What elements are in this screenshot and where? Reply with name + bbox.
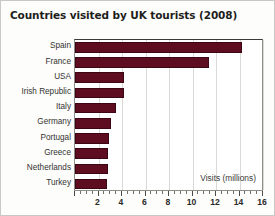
axis-tick-major — [192, 191, 193, 196]
x-tick-label: 10 — [187, 197, 197, 207]
axis-tick-minor — [244, 191, 245, 194]
axis-tick-minor — [197, 191, 198, 194]
axis-tick-minor — [109, 191, 110, 194]
chart-title: Countries visited by UK tourists (2008) — [10, 9, 237, 21]
axis-tick-minor — [180, 191, 181, 194]
axis-tick-major — [74, 191, 75, 196]
axis-tick-major — [215, 191, 216, 196]
bar — [75, 148, 108, 159]
x-axis-title: Visits (millions) — [200, 173, 256, 183]
bar-row — [75, 146, 264, 161]
axis-tick-major — [262, 191, 263, 196]
x-axis: 246810121416 — [74, 191, 263, 215]
axis-tick-minor — [221, 191, 222, 194]
axis-tick-minor — [256, 191, 257, 194]
bar-row — [75, 55, 264, 70]
category-label: Spain — [1, 41, 71, 50]
axis-tick-minor — [162, 191, 163, 194]
bar — [75, 42, 242, 53]
bar-row — [75, 86, 264, 101]
category-axis-labels: SpainFranceUSAIrish RepublicItalyGermany… — [1, 39, 71, 191]
x-tick-label: 12 — [210, 197, 220, 207]
bar — [75, 103, 116, 114]
axis-tick-minor — [139, 191, 140, 194]
axis-tick-minor — [186, 191, 187, 194]
category-label: Netherlands — [1, 163, 71, 172]
axis-tick-major — [239, 191, 240, 196]
category-label: Italy — [1, 102, 71, 111]
x-tick-label: 4 — [119, 197, 124, 207]
category-label: Germany — [1, 117, 71, 126]
axis-tick-minor — [133, 191, 134, 194]
bar-series — [75, 40, 262, 190]
category-label: Portugal — [1, 133, 71, 142]
category-label: France — [1, 57, 71, 66]
category-label: Turkey — [1, 178, 71, 187]
axis-tick-major — [168, 191, 169, 196]
axis-tick-major — [145, 191, 146, 196]
axis-tick-minor — [92, 191, 93, 194]
category-label: Greece — [1, 148, 71, 157]
axis-tick-minor — [80, 191, 81, 194]
bar — [75, 179, 107, 190]
axis-tick-major — [98, 191, 99, 196]
axis-tick-minor — [233, 191, 234, 194]
axis-tick-minor — [209, 191, 210, 194]
bar — [75, 164, 108, 175]
category-label: USA — [1, 72, 71, 81]
axis-tick-minor — [156, 191, 157, 194]
x-tick-label: 8 — [166, 197, 171, 207]
x-tick-label: 14 — [234, 197, 244, 207]
x-tick-label: 2 — [95, 197, 100, 207]
category-label: Irish Republic — [1, 87, 71, 96]
axis-tick-minor — [203, 191, 204, 194]
axis-tick-minor — [250, 191, 251, 194]
bar — [75, 57, 209, 68]
bar — [75, 72, 124, 83]
chart-figure: Countries visited by UK tourists (2008) … — [0, 0, 275, 216]
bar-row — [75, 116, 264, 131]
axis-tick-minor — [174, 191, 175, 194]
plot-area: Visits (millions) — [74, 39, 263, 191]
axis-tick-minor — [227, 191, 228, 194]
bar — [75, 88, 124, 99]
x-tick-label: 16 — [257, 197, 267, 207]
axis-tick-minor — [150, 191, 151, 194]
axis-tick-minor — [127, 191, 128, 194]
bar — [75, 133, 109, 144]
axis-tick-major — [121, 191, 122, 196]
bar-row — [75, 131, 264, 146]
bar-row — [75, 101, 264, 116]
axis-tick-minor — [115, 191, 116, 194]
bar — [75, 118, 111, 129]
axis-tick-minor — [103, 191, 104, 194]
bar-row — [75, 70, 264, 85]
bar-row — [75, 40, 264, 55]
axis-tick-minor — [86, 191, 87, 194]
x-tick-label: 6 — [142, 197, 147, 207]
